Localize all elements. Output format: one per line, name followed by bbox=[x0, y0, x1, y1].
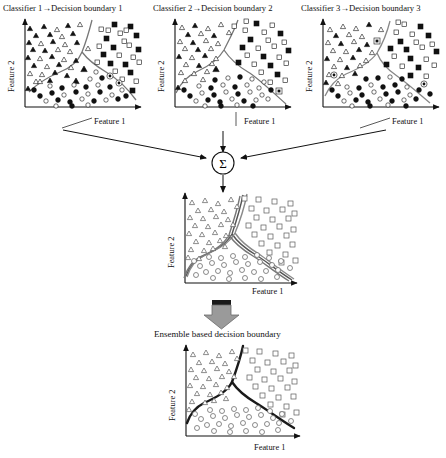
panel-combined-ylabel: Feature 2 bbox=[167, 237, 176, 268]
panel-2-xlabel: Feature 1 bbox=[244, 117, 275, 126]
panel-ensemble-xlabel: Feature 1 bbox=[254, 443, 285, 452]
panel-1-ylabel: Feature 2 bbox=[7, 61, 16, 92]
ensemble-caption: Ensemble based decision boundary bbox=[154, 329, 281, 339]
diagram-canvas: Classifier 1→Decision boundary 1 Classif… bbox=[0, 0, 446, 458]
panel-combined-xlabel: Feature 1 bbox=[252, 287, 283, 296]
panel-2-ylabel: Feature 2 bbox=[157, 61, 166, 92]
panel-title-3: Classifier 3→Decision boundary 3 bbox=[301, 3, 421, 13]
sigma-icon: Σ bbox=[219, 156, 227, 171]
panel-3-ylabel: Feature 2 bbox=[305, 61, 314, 92]
panel-1-xlabel: Feature 1 bbox=[94, 117, 125, 126]
panel-ensemble-ylabel: Feature 2 bbox=[168, 390, 177, 421]
panel-title-1: Classifier 1→Decision boundary 1 bbox=[3, 3, 123, 13]
panel-title-2: Classifier 2→Decision boundary 2 bbox=[153, 3, 273, 13]
combiner-node: Σ bbox=[212, 152, 234, 174]
panel-3-xlabel: Feature 1 bbox=[392, 117, 423, 126]
